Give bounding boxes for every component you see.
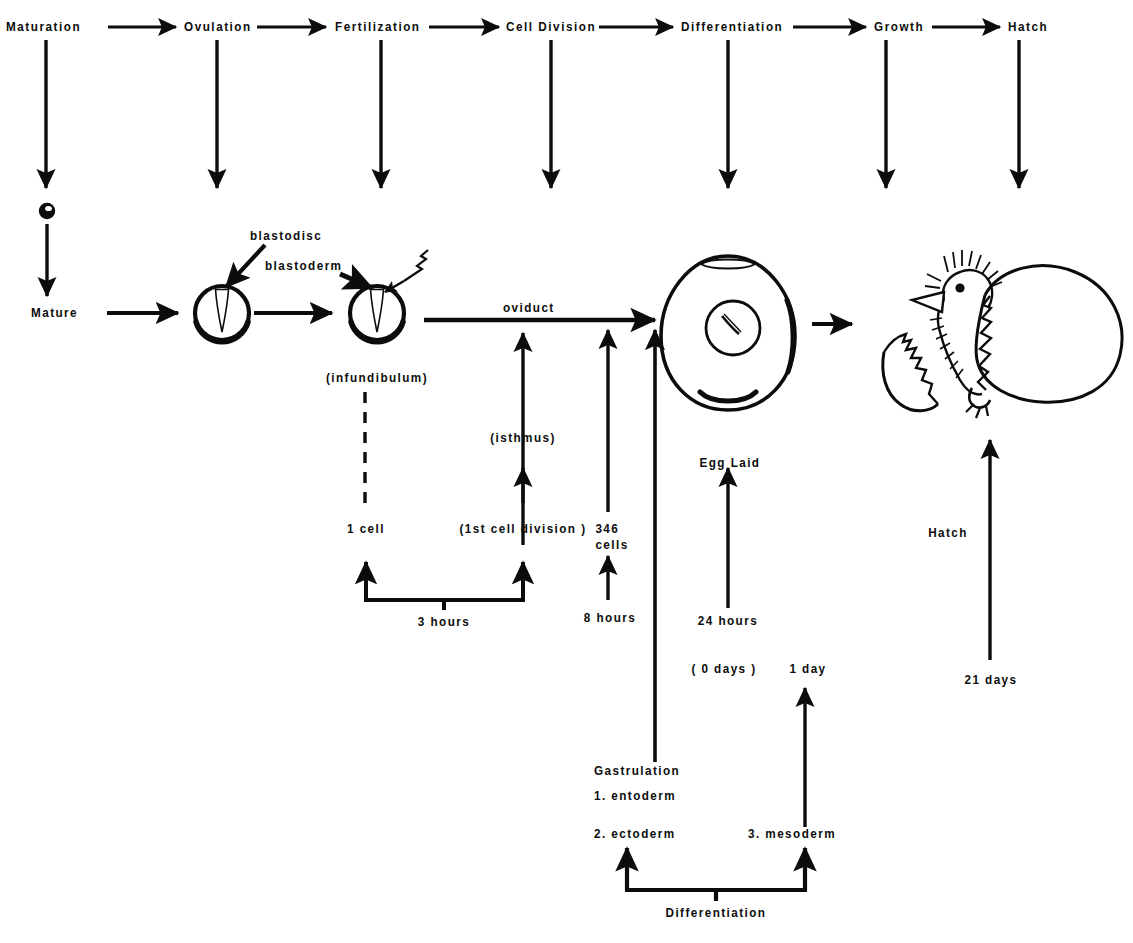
label-8-hours: 8 hours [584,610,636,625]
stage-drop-arrows [46,40,1019,188]
label-3-hours: 3 hours [418,614,470,629]
diagram-vector-layer [0,0,1133,943]
label-hatch-event: Hatch [928,525,968,540]
bracket-3-hours [364,562,525,610]
ovum-blastoderm-illustration [350,286,404,342]
label-21-days: 21 days [964,672,1017,687]
label-mature: Mature [31,305,78,320]
label-1-cell: 1 cell [347,521,385,536]
label-mesoderm: 3. mesoderm [748,826,836,841]
stage-label-maturation: Maturation [6,19,81,34]
label-gastrulation: Gastrulation [594,763,680,778]
laid-egg-illustration [661,256,795,410]
label-oviduct: oviduct [503,300,555,315]
label-blastodisc: blastodisc [250,228,322,243]
hatching-chick-illustration [883,250,1122,418]
label-differentiation-bracket: Differentiation [666,905,767,920]
label-346-cells: 346 cells [595,521,628,553]
stage-label-ovulation: Ovulation [184,19,252,34]
bracket-differentiation [625,848,807,901]
label-entoderm: 1. entoderm [594,788,676,803]
label-infundibulum: (infundibulum) [326,370,428,385]
label-isthmus: (isthmus) [490,430,556,445]
callout-arrow-blastodisc [226,245,265,287]
callout-arrow-blastoderm [340,274,372,288]
label-24-hours: 24 hours [698,613,758,628]
stage-label-fertilization: Fertilization [335,19,421,34]
stage-label-hatch: Hatch [1008,19,1048,34]
ovum-small-illustration [39,203,55,219]
callout-squiggle-blastoderm [404,250,428,281]
diagram-canvas: Maturation Ovulation Fertilization Cell … [0,0,1133,943]
stage-label-growth: Growth [874,19,924,34]
label-blastoderm: blastoderm [265,258,342,273]
label-1st-cell-division: (1st cell division ) [460,521,587,536]
label-0-days: ( 0 days ) [691,661,756,676]
stage-label-differentiation: Differentiation [681,19,783,34]
stage-label-cell-division: Cell Division [506,19,596,34]
label-egg-laid: Egg Laid [700,455,761,470]
label-ectoderm: 2. ectoderm [594,826,676,841]
ovum-blastodisc-illustration [195,286,249,342]
label-1-day: 1 day [789,661,826,676]
